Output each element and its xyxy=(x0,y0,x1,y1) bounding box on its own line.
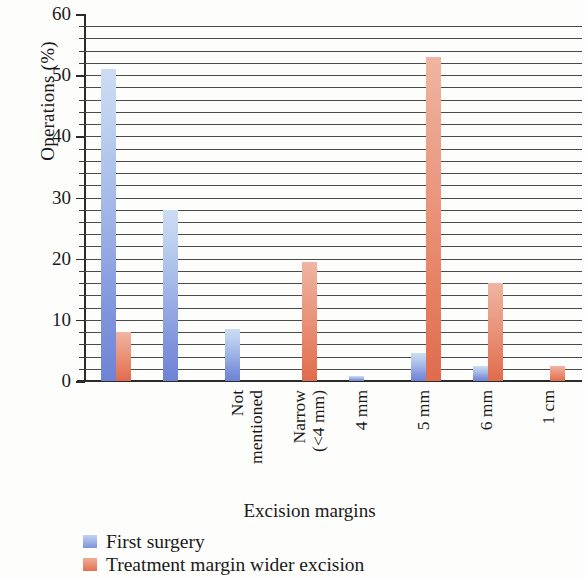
y-axis-minor-tick xyxy=(79,308,85,309)
gridline xyxy=(85,149,582,150)
y-axis-minor-tick xyxy=(79,38,85,39)
y-axis-tick-label: 50 xyxy=(52,64,71,86)
bar xyxy=(349,376,364,381)
legend-swatch xyxy=(83,535,97,548)
gridline xyxy=(85,112,582,113)
x-axis-tick-label: 6 mm xyxy=(477,390,496,510)
y-axis-minor-tick xyxy=(79,234,85,235)
gridline xyxy=(85,246,582,247)
bar xyxy=(116,332,131,381)
gridline xyxy=(85,369,582,370)
y-axis-major-tick xyxy=(76,381,85,383)
x-axis-tick-label: Not mentioned xyxy=(228,390,266,510)
bar xyxy=(488,283,503,381)
y-axis-tick-label: 60 xyxy=(52,3,71,25)
y-axis-minor-tick xyxy=(79,124,85,125)
y-axis-tick-label: 0 xyxy=(62,370,72,392)
gridline xyxy=(85,308,582,309)
y-axis-minor-tick xyxy=(79,51,85,52)
gridline xyxy=(85,283,582,284)
y-axis-minor-tick xyxy=(79,26,85,27)
bar-chart-figure: Operations (%) 0102030405060 Not mention… xyxy=(0,0,585,581)
y-axis-minor-tick xyxy=(79,344,85,345)
gridline xyxy=(85,332,582,333)
gridline xyxy=(85,198,582,199)
y-axis-minor-tick xyxy=(79,173,85,174)
y-axis-minor-tick xyxy=(79,210,85,211)
x-axis-title: Excision margins xyxy=(0,500,585,522)
y-axis-minor-tick xyxy=(79,283,85,284)
bar xyxy=(302,262,317,381)
gridline xyxy=(85,271,582,272)
legend-label: Treatment margin wider excision xyxy=(106,554,364,576)
y-axis-major-tick xyxy=(76,259,85,261)
y-axis-minor-tick xyxy=(79,149,85,150)
x-axis-tick-label: Narrow (<4 mm) xyxy=(290,390,328,510)
y-axis-minor-tick xyxy=(79,369,85,370)
legend-label: First surgery xyxy=(106,531,205,553)
y-axis-minor-tick xyxy=(79,332,85,333)
y-axis-tick-label: 20 xyxy=(52,248,71,270)
y-axis-minor-tick xyxy=(79,87,85,88)
gridline xyxy=(85,63,582,64)
y-axis-tick-label: 10 xyxy=(52,309,71,331)
bar xyxy=(550,366,565,381)
plot-area: 0102030405060 xyxy=(85,14,582,381)
y-axis-major-tick xyxy=(76,75,85,77)
gridline xyxy=(85,38,582,39)
y-axis-minor-tick xyxy=(79,100,85,101)
gridline xyxy=(85,100,582,101)
y-axis-tick-label: 30 xyxy=(52,187,71,209)
legend-item: Treatment margin wider excision xyxy=(83,553,364,576)
legend-item: First surgery xyxy=(83,530,364,553)
gridline xyxy=(85,344,582,345)
bar xyxy=(225,329,240,381)
gridline xyxy=(85,124,582,125)
x-axis-tick-label: 4 mm xyxy=(352,390,371,510)
gridline xyxy=(85,259,582,260)
y-axis-tick-label: 40 xyxy=(52,125,71,147)
gridline xyxy=(85,320,582,321)
gridline xyxy=(85,222,582,223)
bar xyxy=(473,366,488,381)
gridline xyxy=(85,87,582,88)
y-axis-major-tick xyxy=(76,320,85,322)
gridline xyxy=(85,75,582,76)
gridline xyxy=(85,161,582,162)
bar xyxy=(101,69,116,381)
chart-legend: First surgeryTreatment margin wider exci… xyxy=(83,530,364,576)
gridline xyxy=(85,357,582,358)
y-axis-minor-tick xyxy=(79,271,85,272)
y-axis-minor-tick xyxy=(79,185,85,186)
gridline xyxy=(85,234,582,235)
bar xyxy=(426,57,441,381)
y-axis-minor-tick xyxy=(79,295,85,296)
x-axis-tick-label: 5 mm xyxy=(414,390,433,510)
gridline xyxy=(85,295,582,296)
y-axis-title: Operations (%) xyxy=(37,0,59,211)
y-axis-minor-tick xyxy=(79,246,85,247)
gridline xyxy=(85,173,582,174)
x-axis-line xyxy=(77,380,582,382)
y-axis-major-tick xyxy=(76,14,85,16)
gridline xyxy=(85,26,582,27)
y-axis-minor-tick xyxy=(79,63,85,64)
legend-swatch xyxy=(83,558,97,571)
gridline xyxy=(85,136,582,137)
y-axis-minor-tick xyxy=(79,222,85,223)
y-axis-minor-tick xyxy=(79,161,85,162)
bar xyxy=(411,353,426,381)
y-axis-minor-tick xyxy=(79,357,85,358)
y-axis-major-tick xyxy=(76,198,85,200)
x-axis-tick-label: 1 cm xyxy=(539,390,558,510)
y-axis-major-tick xyxy=(76,136,85,138)
gridline xyxy=(85,51,582,52)
bar xyxy=(163,210,178,381)
gridline xyxy=(85,185,582,186)
gridline xyxy=(85,210,582,211)
y-axis-minor-tick xyxy=(79,112,85,113)
